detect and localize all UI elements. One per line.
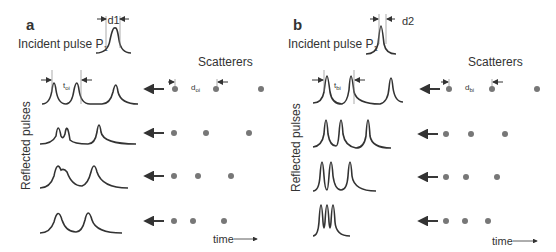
t-bi-label: tbi: [334, 81, 341, 91]
scatterers-title: Scatterers: [468, 55, 523, 69]
panel-b-label: b: [293, 16, 302, 33]
width-d2-label: d2: [402, 15, 414, 27]
incident-pulse-label: Incident pulse P1: [288, 37, 378, 53]
reflected-pulse-row-2: [313, 120, 391, 148]
reflected-pulse-row-4: [40, 213, 122, 233]
time-axis-label: time: [213, 233, 234, 245]
reflected-pulses-ylabel: Reflected pulses: [19, 101, 33, 190]
reflected-pulse-row-1: [42, 83, 138, 104]
t-oi-label: toi: [63, 81, 70, 91]
panel-a: a Incident pulse P1 d1 Scatterers Reflec…: [18, 14, 264, 245]
panel-b: b Incident pulse P1 d2 Scatterers Reflec…: [288, 14, 540, 247]
scatterers-title: Scatterers: [198, 55, 253, 69]
incident-pulse-label: Incident pulse P1: [18, 37, 108, 53]
reflected-pulses-ylabel: Reflected pulses: [289, 103, 303, 192]
reflected-pulse-row-2: [40, 125, 136, 144]
panel-a-label: a: [26, 16, 35, 33]
d-oi-label: doi: [191, 83, 200, 93]
reflected-pulse-row-4: [313, 205, 350, 236]
d-bi-label: dbi: [465, 83, 474, 93]
time-axis-label: time: [492, 235, 513, 247]
pulse-diagram: a Incident pulse P1 d1 Scatterers Reflec…: [0, 0, 556, 252]
reflected-pulse-row-3: [40, 166, 128, 188]
width-d1-label: d1: [108, 14, 120, 26]
reflected-pulse-row-3: [313, 162, 376, 191]
